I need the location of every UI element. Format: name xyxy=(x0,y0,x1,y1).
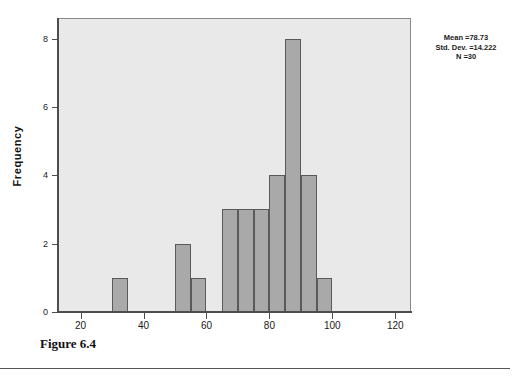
histogram-bar xyxy=(112,278,128,312)
y-axis-tick xyxy=(52,39,58,40)
x-axis-tick-label: 60 xyxy=(186,320,226,331)
y-axis-line xyxy=(57,18,59,313)
stat-mean: Mean =78.73 xyxy=(418,33,514,43)
x-axis-tick-label: 40 xyxy=(124,320,164,331)
histogram-bar xyxy=(317,278,333,312)
x-axis-line xyxy=(57,311,412,313)
page-divider xyxy=(0,368,510,369)
histogram-bars xyxy=(57,18,411,312)
histogram-bar xyxy=(269,175,285,312)
stat-n: N =30 xyxy=(418,52,514,62)
y-axis-tick xyxy=(52,175,58,176)
y-axis-tick xyxy=(52,244,58,245)
y-axis-title: Frequency xyxy=(11,106,23,206)
x-axis-tick-label: 100 xyxy=(312,320,352,331)
y-axis-tick xyxy=(52,107,58,108)
histogram-bar xyxy=(191,278,207,312)
histogram-bar xyxy=(175,244,191,312)
x-axis-tick xyxy=(395,313,396,319)
histogram-bar xyxy=(285,39,301,312)
x-axis-tick xyxy=(81,313,82,319)
stat-std-dev: Std. Dev. =14.222 xyxy=(418,43,514,53)
y-axis-tick xyxy=(52,312,58,313)
x-axis-tick xyxy=(269,313,270,319)
y-axis-tick-label: 0 xyxy=(18,308,48,317)
histogram-figure: 02468 20406080100120 Frequency Mean =78.… xyxy=(0,0,518,379)
histogram-bar xyxy=(301,175,317,312)
y-axis-tick-label: 2 xyxy=(18,240,48,249)
y-axis-tick-label: 8 xyxy=(18,35,48,44)
x-axis-tick xyxy=(332,313,333,319)
figure-caption: Figure 6.4 xyxy=(40,336,96,352)
x-axis-tick-label: 20 xyxy=(61,320,101,331)
x-axis-tick xyxy=(144,313,145,319)
x-axis-tick-label: 80 xyxy=(249,320,289,331)
x-axis-tick-label: 120 xyxy=(375,320,415,331)
stats-annotation: Mean =78.73 Std. Dev. =14.222 N =30 xyxy=(418,33,514,62)
histogram-bar xyxy=(238,209,254,312)
x-axis-tick xyxy=(206,313,207,319)
histogram-bar xyxy=(222,209,238,312)
histogram-bar xyxy=(254,209,270,312)
